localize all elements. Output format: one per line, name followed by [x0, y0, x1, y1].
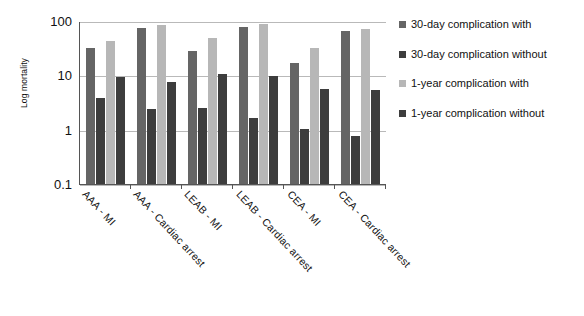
bar[interactable] — [310, 48, 319, 184]
bar[interactable] — [198, 108, 207, 184]
legend-item[interactable]: 1-year complication with — [399, 77, 579, 90]
bar[interactable] — [300, 129, 309, 184]
bar[interactable] — [239, 27, 248, 184]
bar[interactable] — [188, 51, 197, 184]
bar[interactable] — [269, 76, 278, 184]
x-axis-label: AAA - MI — [80, 188, 118, 228]
bar[interactable] — [320, 89, 329, 184]
bar[interactable] — [218, 74, 227, 184]
y-tick-label: 1 — [32, 124, 72, 137]
x-axis-category-labels: AAA - MIAAA - Cardiac arrestLEAB - MILEA… — [79, 188, 386, 298]
legend-item[interactable]: 30-day complication without — [399, 48, 579, 61]
log-mortality-bar-chart: Log mortality 1001010.1 AAA - MIAAA - Ca… — [0, 0, 584, 316]
bar[interactable] — [259, 24, 268, 184]
y-tick-label: 100 — [32, 15, 72, 28]
y-tick-label: 0.1 — [32, 178, 72, 191]
legend-item[interactable]: 30-day complication with — [399, 18, 579, 31]
legend-label: 30-day complication with — [411, 18, 531, 31]
gridline — [80, 185, 386, 186]
bar-group — [182, 22, 233, 184]
bar[interactable] — [361, 29, 370, 184]
bar[interactable] — [351, 136, 360, 184]
bar[interactable] — [157, 25, 166, 184]
legend-label: 1-year complication with — [411, 77, 529, 90]
bar[interactable] — [167, 82, 176, 184]
legend-swatch-icon — [399, 80, 406, 87]
chart-legend: 30-day complication with30-day complicat… — [399, 18, 579, 136]
bar[interactable] — [147, 109, 156, 184]
bar[interactable] — [371, 90, 380, 184]
bar-group — [131, 22, 182, 184]
bar[interactable] — [290, 63, 299, 184]
bar-group — [284, 22, 335, 184]
y-axis-tick-labels: 1001010.1 — [20, 0, 72, 316]
legend-item[interactable]: 1-year complication without — [399, 107, 579, 120]
legend-swatch-icon — [399, 21, 406, 28]
bar[interactable] — [106, 41, 115, 184]
legend-swatch-icon — [399, 110, 406, 117]
bar[interactable] — [208, 38, 217, 184]
bar[interactable] — [137, 28, 146, 184]
legend-swatch-icon — [399, 51, 406, 58]
bar-groups — [80, 22, 386, 184]
bar-group — [335, 22, 386, 184]
y-tick-label: 10 — [32, 69, 72, 82]
legend-label: 30-day complication without — [411, 48, 547, 61]
x-axis-label: CEA - MI — [285, 188, 324, 228]
bar-group — [80, 22, 131, 184]
x-axis-label: LEAB - MI — [183, 188, 226, 233]
bar-group — [233, 22, 284, 184]
bar[interactable] — [116, 77, 125, 184]
plot-area — [79, 22, 386, 185]
bar[interactable] — [341, 31, 350, 184]
bar[interactable] — [249, 118, 258, 184]
x-axis-label: CEA - Cardiac arrest — [336, 188, 413, 270]
bar[interactable] — [96, 98, 105, 184]
legend-label: 1-year complication without — [411, 107, 544, 120]
bar[interactable] — [86, 48, 95, 184]
